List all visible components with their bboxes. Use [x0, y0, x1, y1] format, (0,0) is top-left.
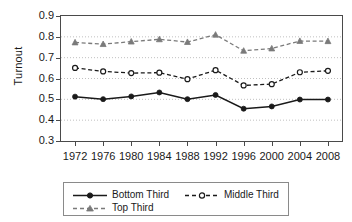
data-point-marker: [185, 97, 190, 102]
data-point-marker: [269, 104, 274, 109]
y-axis-tick-mark: [56, 99, 60, 100]
data-point-marker: [325, 97, 330, 102]
data-point-marker: [297, 97, 302, 102]
data-point-marker: [129, 71, 134, 76]
legend-label-middle-third: Middle Third: [224, 189, 279, 201]
x-axis-tick-mark: [216, 142, 217, 146]
data-point-marker: [213, 68, 218, 73]
y-axis-tick-mark: [56, 16, 60, 17]
y-axis-tick-label: 0.8: [28, 31, 54, 42]
x-axis-tick-mark: [300, 142, 301, 146]
chart-figure: Turnout 0.30.40.50.60.70.80.9 Bottom Thi…: [0, 0, 352, 222]
legend-swatch-bottom-third: [72, 190, 108, 201]
series-line: [75, 68, 328, 85]
x-axis-tick-mark: [244, 142, 245, 146]
x-axis-tick-mark: [75, 142, 76, 146]
data-point-marker: [101, 97, 106, 102]
x-axis-tick-label: 2008: [308, 150, 348, 162]
x-axis-tick-mark: [131, 142, 132, 146]
y-axis-tick-mark: [56, 37, 60, 38]
y-axis-title: Turnout: [12, 26, 24, 106]
y-axis-tick-label: 0.3: [28, 135, 54, 146]
data-point-marker: [213, 92, 218, 97]
data-point-marker: [269, 82, 274, 87]
legend-swatch-middle-third: [184, 190, 220, 201]
y-axis-tick-label: 0.5: [28, 93, 54, 104]
data-point-marker: [241, 106, 246, 111]
data-point-marker: [129, 94, 134, 99]
y-axis-tick-labels: 0.30.40.50.60.70.80.9: [26, 0, 54, 222]
plot-area: [60, 15, 343, 142]
legend-swatch-top-third: [72, 203, 108, 214]
x-axis-tick-mark: [103, 142, 104, 146]
y-axis-tick-mark: [56, 141, 60, 142]
data-point-marker: [213, 32, 219, 38]
plot-svg: [61, 16, 342, 141]
y-axis-tick-label: 0.4: [28, 114, 54, 125]
chart-legend: Bottom Third Middle Third Top Third: [63, 182, 289, 216]
x-axis-tick-mark: [187, 142, 188, 146]
data-point-marker: [101, 69, 106, 74]
y-axis-tick-mark: [56, 79, 60, 80]
legend-label-bottom-third: Bottom Third: [112, 189, 169, 201]
x-axis-tick-mark: [328, 142, 329, 146]
data-point-marker: [73, 65, 78, 70]
y-axis-tick-mark: [56, 120, 60, 121]
x-axis-tick-mark: [159, 142, 160, 146]
data-point-marker: [185, 77, 190, 82]
data-point-marker: [297, 70, 302, 75]
series-line: [75, 92, 328, 108]
y-axis-tick-label: 0.7: [28, 52, 54, 63]
data-point-marker: [325, 68, 330, 73]
data-point-marker: [241, 48, 247, 54]
x-axis-tick-mark: [272, 142, 273, 146]
y-axis-tick-label: 0.6: [28, 73, 54, 84]
data-point-marker: [157, 70, 162, 75]
data-point-marker: [241, 83, 246, 88]
data-point-marker: [157, 90, 162, 95]
y-axis-tick-label: 0.9: [28, 10, 54, 21]
data-point-marker: [73, 94, 78, 99]
legend-label-top-third: Top Third: [112, 202, 154, 214]
y-axis-tick-mark: [56, 58, 60, 59]
